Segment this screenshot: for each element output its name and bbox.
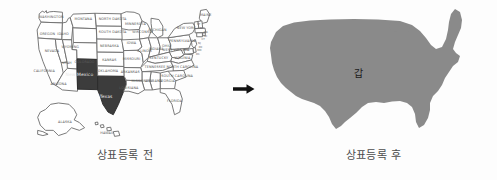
state-label-kansas: KANSAS	[102, 58, 116, 62]
state-hawaii-island-1	[95, 122, 98, 125]
state-label-utah: UTAH	[62, 61, 72, 65]
state-hawaii-island-2	[100, 125, 104, 128]
state-hawaii-island-4	[113, 131, 120, 136]
state-label-south-carolina: SOUTH CAROLINA	[161, 74, 193, 78]
state-label-missouri: MISSOURI	[123, 57, 141, 61]
state-label-tennessee: TENNESSEE	[144, 65, 166, 69]
state-label-virginia: VIRGINIA	[174, 56, 191, 60]
state-connecticut	[197, 33, 203, 37]
state-label-wyoming: WYOMING	[61, 45, 79, 49]
state-label-iowa: IOWA	[127, 41, 137, 45]
silhouette-party-label: 갑	[347, 68, 369, 80]
state-label-north-dakota: NORTH DAKOTA	[99, 17, 127, 21]
state-label-florida: FLORIDA	[167, 99, 183, 103]
state-label-north-carolina: NORTH CAROLINA	[166, 65, 198, 69]
state-label-de: DE	[199, 46, 203, 49]
state-label-montana: MONTANA	[74, 17, 92, 21]
state-label-new-york: NEW YORK	[177, 26, 197, 30]
state-label-maine: MAINE	[200, 13, 211, 17]
state-label-california: CALIFORNIA	[33, 69, 55, 73]
state-label-vt: VT	[197, 23, 201, 26]
highlight-state-label-texas: Texas	[99, 94, 113, 99]
state-label-oregon: OREGON	[40, 32, 56, 36]
us-states-map: WASHINGTONOREGONIDAHOMONTANANORTH DAKOTA…	[0, 0, 250, 146]
state-label-west-virginia: WEST VIRGINIA	[162, 48, 190, 52]
us-states-map-svg: WASHINGTONOREGONIDAHOMONTANANORTH DAKOTA…	[0, 0, 250, 146]
state-label-kentucky: KENTUCKY	[150, 56, 170, 60]
us-silhouette-svg	[250, 0, 497, 146]
caption-after: 상표등록 후	[250, 146, 497, 162]
state-label-ct: CT	[202, 38, 206, 41]
state-label-louisiana: LOUISIANA	[119, 86, 139, 90]
state-label-hawaii: HAWAII	[100, 131, 113, 135]
alaska-aleutian-chain	[38, 130, 48, 135]
state-label-md: MD	[197, 49, 201, 52]
panel-after-registration: 상표등록 후	[250, 0, 497, 180]
state-label-washington: WASHINGTON	[39, 15, 64, 19]
state-label-oklahoma: OKLAHOMA	[98, 69, 119, 73]
state-label-nh: NH	[200, 27, 204, 30]
state-label-alaska: ALASKA	[58, 120, 72, 124]
state-label-ri: RI	[205, 35, 208, 38]
state-label-arizona: ARIZONA	[50, 82, 67, 86]
caption-before: 상표등록 전	[0, 146, 250, 162]
state-label-ma: MA	[204, 31, 208, 34]
state-label-pennsylvania: PENNSYLVANIA	[169, 39, 196, 43]
state-label-dc: DC	[196, 53, 200, 56]
state-label-arkansas: ARKANSAS	[121, 70, 140, 74]
state-label-minnesota: MINNESOTA	[125, 22, 147, 26]
trademark-registration-figure: WASHINGTONOREGONIDAHOMONTANANORTH DAKOTA…	[0, 0, 497, 180]
state-label-south-dakota: SOUTH DAKOTA	[99, 30, 127, 34]
state-label-michigan: MICHIGAN	[149, 28, 167, 32]
us-silhouette-map	[250, 0, 497, 146]
state-wyoming	[73, 28, 97, 43]
highlight-state-label-new-mexico: New Mexico	[65, 72, 93, 77]
state-label-nebraska: NEBRASKA	[100, 44, 120, 48]
state-label-nj: NJ	[198, 42, 201, 45]
state-label-ohio: OHIO	[162, 44, 172, 48]
state-label-georgia: GEORGIA	[159, 79, 176, 83]
state-label-nevada: NEVADA	[45, 49, 60, 53]
state-label-colorado: COLORADO	[75, 60, 95, 64]
state-label-idaho: IDAHO	[57, 32, 69, 36]
panel-before-registration: WASHINGTONOREGONIDAHOMONTANANORTH DAKOTA…	[0, 0, 250, 180]
